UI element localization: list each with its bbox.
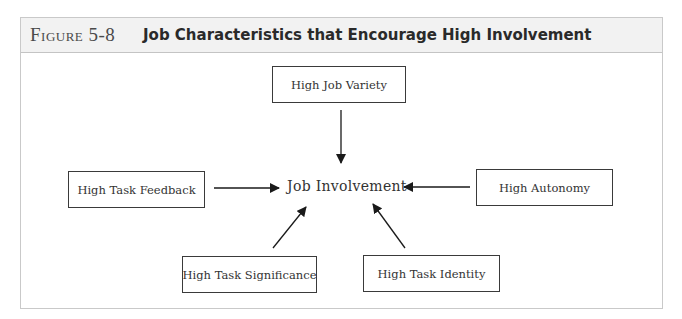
node-high-task-feedback: High Task Feedback — [68, 171, 205, 208]
node-high-task-significance: High Task Significance — [182, 256, 317, 293]
node-label: High Job Variety — [291, 78, 387, 92]
node-label: High Task Identity — [378, 267, 486, 281]
node-high-task-identity: High Task Identity — [363, 255, 500, 292]
node-label: High Task Significance — [183, 268, 317, 282]
node-label: High Task Feedback — [77, 183, 195, 197]
arrow-identity-to-center — [373, 204, 405, 248]
node-high-autonomy: High Autonomy — [476, 169, 613, 206]
center-job-involvement: Job Involvement — [287, 178, 407, 194]
arrows-layer — [0, 0, 682, 319]
node-label: High Autonomy — [499, 181, 590, 195]
arrow-significance-to-center — [273, 207, 306, 248]
node-high-job-variety: High Job Variety — [272, 66, 406, 103]
